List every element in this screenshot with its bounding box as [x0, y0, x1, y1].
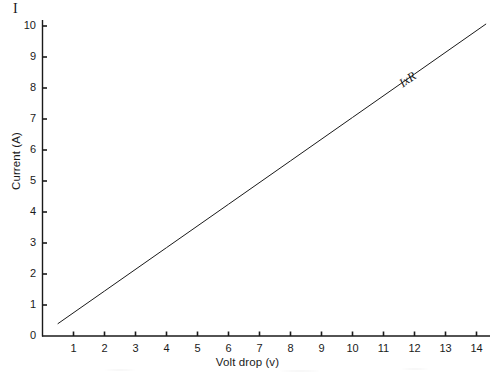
y-axis-tick-label: 8 — [10, 81, 36, 93]
x-axis-tick-label: 13 — [433, 342, 459, 354]
y-axis-tick-label: 3 — [10, 236, 36, 248]
y-axis-tick-label: 9 — [10, 50, 36, 62]
y-axis-tick-label: 4 — [10, 205, 36, 217]
iv-characteristic-chart: Current (A) I 012345678910 1234567891011… — [0, 0, 495, 375]
x-axis-tick-label: 4 — [154, 342, 180, 354]
x-axis-tick-label: 14 — [464, 342, 490, 354]
y-axis-tick-label: 2 — [10, 267, 36, 279]
x-axis-tick-label: 3 — [123, 342, 149, 354]
y-axis-tick-label: 7 — [10, 112, 36, 124]
x-axis-tick-label: 2 — [92, 342, 118, 354]
x-axis-tick-label: 5 — [185, 342, 211, 354]
y-axis-tick-label: 6 — [10, 143, 36, 155]
y-axis-tick-label: 1 — [10, 298, 36, 310]
y-axis-tick-label: 10 — [10, 19, 36, 31]
data-series-line — [58, 24, 486, 323]
x-axis-tick-label: 6 — [216, 342, 242, 354]
x-axis-tick-label: 10 — [340, 342, 366, 354]
scan-artifact — [0, 366, 495, 375]
y-axis-tick-label: 5 — [10, 174, 36, 186]
x-axis-tick-label: 9 — [309, 342, 335, 354]
x-axis-tick-label: 12 — [402, 342, 428, 354]
plot-area — [0, 0, 495, 375]
data-series-group — [58, 24, 486, 323]
x-axis-tick-label: 1 — [61, 342, 87, 354]
x-axis-tick-label: 8 — [278, 342, 304, 354]
y-axis-tick-label: 0 — [10, 329, 36, 341]
x-axis-tick-label: 11 — [371, 342, 397, 354]
x-axis-tick-label: 7 — [247, 342, 273, 354]
